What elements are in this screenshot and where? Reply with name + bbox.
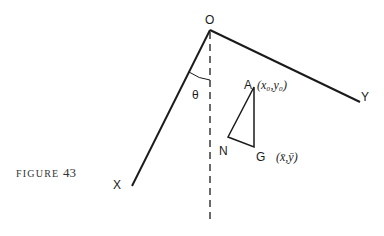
label-o: O (205, 13, 214, 27)
label-n: N (219, 144, 228, 158)
figure-caption: FIGURE 43 (16, 165, 76, 181)
angle-arc (189, 72, 210, 80)
label-a: A (244, 78, 252, 92)
label-theta: θ (192, 88, 199, 102)
line-ox (132, 30, 210, 186)
label-y: Y (361, 90, 369, 104)
label-x: X (113, 178, 121, 192)
figure-43-diagram: O X Y θ A (x₀,y₀) N G (x̄,ȳ) (0, 0, 384, 236)
label-g: G (256, 150, 265, 164)
label-a-coords: (x₀,y₀) (257, 78, 287, 92)
caption-number: 43 (63, 165, 76, 180)
triangle-ang (228, 87, 254, 147)
caption-word: FIGURE (16, 168, 59, 179)
label-g-coords: (x̄,ȳ) (276, 150, 298, 164)
